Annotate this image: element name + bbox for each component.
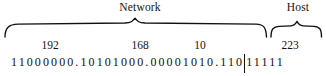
octet-decimal-3: 10 — [176, 38, 224, 52]
network-host-divider-icon — [244, 54, 245, 73]
octet-decimal-4: 223 — [268, 38, 312, 52]
network-brace-icon — [5, 18, 267, 37]
octet-binary-3: 00001010 — [150, 53, 215, 71]
host-bits-segment: 11111 — [246, 53, 285, 71]
host-brace-label: Host — [272, 1, 324, 14]
octet-decimal-2: 168 — [112, 38, 168, 52]
octet-binary-1: 11000000 — [11, 53, 75, 71]
octet-binary-2: 10101000 — [80, 53, 145, 71]
brace-layer — [0, 14, 326, 38]
network-brace-label: Network — [92, 1, 188, 14]
ip-address-diagram: Network Host 192 168 10 223 11000000 . 1… — [0, 0, 326, 76]
octet-decimal-1: 192 — [22, 38, 78, 52]
network-bits-segment: 110 — [220, 53, 244, 71]
host-brace-icon — [271, 21, 322, 37]
binary-address-row: 11000000 . 10101000 . 00001010 . 110 111… — [11, 53, 285, 71]
